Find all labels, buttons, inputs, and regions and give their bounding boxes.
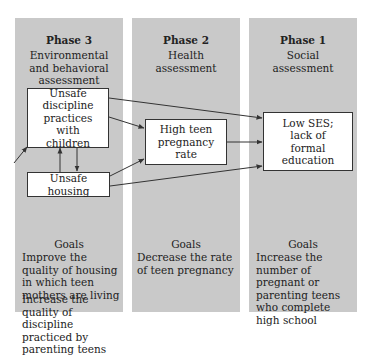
node-label: Low SES; lack of formal education [277,117,339,167]
arrow-housing-to-pregnancy [110,159,144,176]
arrow-housing-to-low-ses [110,166,262,186]
node-unsafe-housing: Unsafe housing [27,172,110,197]
node-low-ses: Low SES; lack of formal education [263,112,353,171]
arrow-discipline-to-pregnancy [109,117,144,128]
node-high-teen-pregnancy: High teen pregnancy rate [145,119,227,165]
node-unsafe-discipline: Unsafe discipline practices with childre… [27,88,109,148]
arrow-external-to-discipline [14,147,27,163]
node-label: Unsafe housing [28,172,109,197]
node-label: High teen pregnancy rate [153,123,219,161]
arrow-discipline-to-low-ses [109,98,262,118]
node-label: Unsafe discipline practices with childre… [33,87,103,150]
